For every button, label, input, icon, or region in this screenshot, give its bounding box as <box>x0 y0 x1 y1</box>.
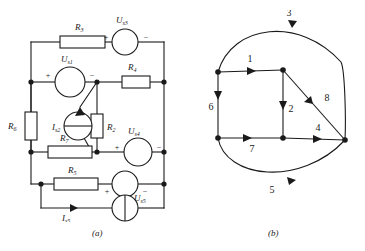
node-dot <box>161 181 166 186</box>
branch-5-line <box>218 138 345 172</box>
source-us1 <box>55 67 85 97</box>
label-r4: R4 <box>127 62 137 73</box>
branch-label-3: 3 <box>287 10 292 18</box>
us1-plus: + <box>46 71 51 80</box>
us1-minus: − <box>90 71 95 80</box>
label-is5: Is5 <box>61 213 70 222</box>
resistor-r6 <box>25 112 37 140</box>
resistor-r7 <box>48 146 92 158</box>
us4-plus: + <box>115 143 120 152</box>
graph-node <box>215 135 221 141</box>
us3-plus: + <box>104 33 109 42</box>
branch-label-1: 1 <box>248 53 253 64</box>
branch-label-5: 5 <box>270 184 275 195</box>
source-us4 <box>124 138 152 166</box>
node-dot <box>161 149 166 154</box>
branch-2-arrow <box>279 101 287 110</box>
graph-node <box>215 69 221 75</box>
us5-minus: − <box>143 187 148 196</box>
label-us4: Us4 <box>128 126 140 137</box>
caption-panel-b: (b) <box>268 228 279 238</box>
label-us3: Us3 <box>116 15 128 26</box>
branch-3-arrow <box>288 20 297 28</box>
branch-3-line <box>218 31 345 140</box>
graph-node <box>280 135 286 141</box>
us3-minus: − <box>144 33 149 42</box>
branch-label-7: 7 <box>250 143 255 154</box>
branch-7-arrow <box>243 134 252 142</box>
node-dot <box>28 79 33 84</box>
label-r3: R3 <box>74 22 84 33</box>
node-dot <box>94 149 99 154</box>
branch-4-arrow <box>313 135 322 143</box>
label-r2: R2 <box>106 122 116 133</box>
resistor-r3 <box>60 36 105 48</box>
node-dot <box>38 181 43 186</box>
label-r5: R5 <box>67 165 77 176</box>
graph-node <box>342 137 348 143</box>
is5-arrowhead <box>70 204 78 212</box>
is2-arrowhead <box>75 107 85 116</box>
label-is2: Is2 <box>51 122 60 133</box>
node-dot <box>161 79 166 84</box>
node-dot <box>94 79 99 84</box>
branch-label-4: 4 <box>316 122 321 133</box>
label-us1: Us1 <box>61 54 73 65</box>
branch-label-2: 2 <box>289 103 294 114</box>
us4-minus: − <box>157 143 162 152</box>
branch-5-arrow <box>287 177 296 185</box>
resistor-r5 <box>54 178 98 190</box>
label-r6: R6 <box>7 121 17 132</box>
branch-8-arrow <box>304 96 313 104</box>
us5-plus: + <box>105 187 110 196</box>
resistor-r2 <box>91 114 103 138</box>
node-dot <box>28 149 33 154</box>
branch-1-arrow <box>247 67 256 75</box>
graph-diagram: 1 2 3 4 5 6 7 8 <box>195 10 360 195</box>
resistor-r4 <box>122 76 150 88</box>
figure-root: R3 Us3 Us1 R4 R6 Is2 R2 R7 Us4 R5 Us5 Is… <box>0 0 365 251</box>
circuit-diagram: R3 Us3 Us1 R4 R6 Is2 R2 R7 Us4 R5 Us5 Is… <box>0 12 200 222</box>
caption-panel-a: (a) <box>92 228 103 238</box>
graph-node <box>280 67 286 73</box>
branch-6-arrow <box>214 91 222 100</box>
source-us3 <box>112 29 138 55</box>
branch-label-6: 6 <box>209 101 214 112</box>
branch-label-8: 8 <box>325 92 330 103</box>
